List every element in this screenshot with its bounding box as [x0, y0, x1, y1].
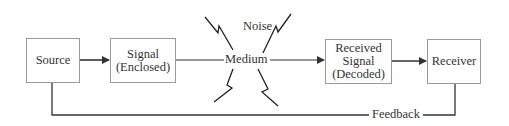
source-box: Source [26, 38, 80, 83]
signal-label-line1: Signal [127, 48, 159, 61]
signal-enclosed-box: Signal (Enclosed) [110, 38, 176, 83]
medium-label: Medium [224, 53, 268, 66]
source-label: Source [36, 54, 71, 67]
noise-bolt-upper-left-icon [205, 17, 233, 50]
noise-bolt-lower-right-icon [258, 69, 278, 106]
receiver-label: Receiver [432, 55, 476, 68]
received-signal-decoded-box: Received Signal (Decoded) [325, 39, 392, 84]
received-label-line3: (Decoded) [332, 68, 385, 81]
receiver-box: Receiver [427, 39, 481, 84]
noise-bolt-lower-left-icon [214, 69, 233, 102]
noise-label: Noise [243, 20, 272, 33]
signal-label-line2: (Enclosed) [116, 61, 170, 74]
feedback-label: Feedback [369, 108, 423, 121]
